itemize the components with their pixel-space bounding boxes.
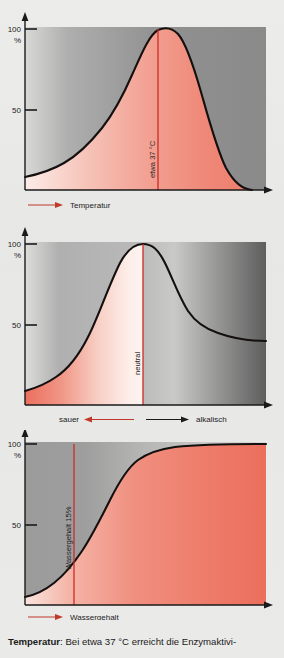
x-axis-label-right: alkalisch [196,415,227,424]
water-content-chart: 100 % 50 Wassergehalt 15% Wassergehalt [0,430,284,620]
ylabel-percent: % [14,251,21,260]
x-axis-arrow-icon [264,187,273,194]
ytick-label-100: 100 [8,240,22,249]
x-axis-label-left: sauer [59,415,79,424]
xlabel-arrow-icon [55,202,63,208]
ytick-label-50: 50 [12,321,21,330]
water-content-chart-svg: 100 % 50 Wassergehalt 15% Wassergehalt [0,430,284,620]
y-axis-arrow-icon [22,430,29,437]
x-axis-arrow-icon [264,602,273,609]
annotation-etwa-37c: etwa 37 °C [148,140,157,178]
figure-page: 100 % 50 etwa 37 °C Temperatur [0,0,284,658]
x-axis-arrow-icon [264,402,273,409]
annotation-neutral: neutral [133,351,142,375]
y-axis-arrow-icon [22,227,29,236]
xlabel-arrow-icon [55,614,63,620]
ylabel-percent: % [14,36,21,45]
temperature-chart: 100 % 50 etwa 37 °C Temperatur [0,0,284,215]
annotation-wassergehalt-15: Wassergehalt 15% [64,506,73,570]
ph-chart: 100 % 50 neutral sauer alkalisch [0,215,284,430]
ph-chart-svg: 100 % 50 neutral sauer alkalisch [0,215,284,430]
x-axis-label: Wassergehalt [70,613,119,620]
figure-caption: Temperatur: Bei etwa 37 °C erreicht die … [8,636,280,648]
ytick-label-50: 50 [12,521,21,530]
ytick-label-50: 50 [12,106,21,115]
ytick-label-100: 100 [8,25,22,34]
temperature-chart-svg: 100 % 50 etwa 37 °C Temperatur [0,0,284,215]
y-axis-arrow-icon [22,12,29,21]
caption-body: : Bei etwa 37 °C erreicht die Enzymaktiv… [60,636,236,647]
ylabel-percent: % [14,451,21,460]
caption-bold-lead: Temperatur [8,636,60,647]
sauer-arrow-icon [84,417,92,423]
alkalisch-arrow-icon [181,417,189,423]
ytick-label-100: 100 [8,440,22,449]
x-axis-label: Temperatur [70,201,111,210]
